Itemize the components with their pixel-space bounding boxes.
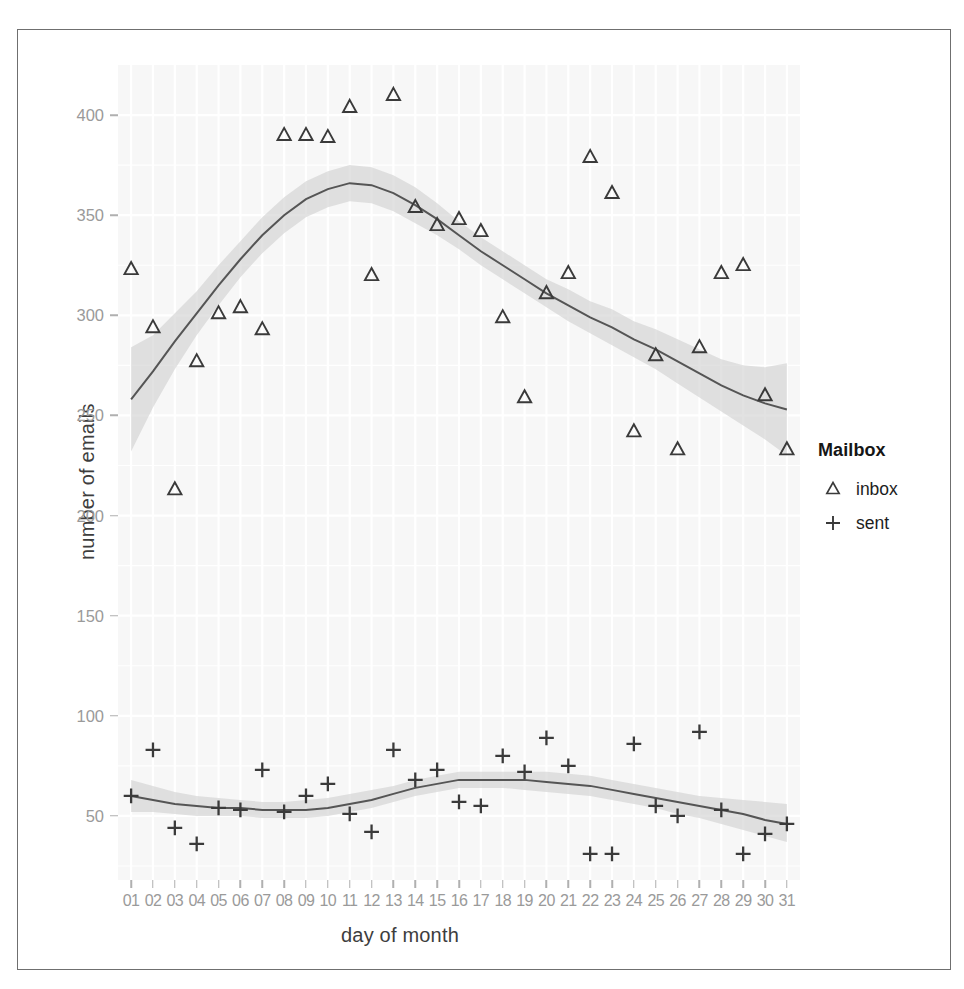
x-axis-tick-mark <box>174 880 176 888</box>
y-axis-tick-mark <box>110 114 118 116</box>
x-axis-tick-mark <box>742 880 744 888</box>
y-axis-tick-mark <box>110 415 118 417</box>
legend-item-sent[interactable]: sent <box>818 508 948 538</box>
y-axis-tick-label: 150 <box>40 606 104 625</box>
x-axis-tick-label: 26 <box>669 892 686 910</box>
x-axis-tick-mark <box>502 880 504 888</box>
x-axis-tick-label: 09 <box>298 892 315 910</box>
x-axis-tick-label: 21 <box>560 892 577 910</box>
x-axis-tick-label: 31 <box>779 892 796 910</box>
x-axis-tick-label: 07 <box>254 892 271 910</box>
x-axis-tick-mark <box>349 880 351 888</box>
x-axis-tick-label: 11 <box>342 892 357 910</box>
x-axis-tick-mark <box>393 880 395 888</box>
y-axis-tick-mark <box>110 315 118 317</box>
y-axis-tick-label: 50 <box>40 806 104 825</box>
x-axis-tick-label: 18 <box>494 892 511 910</box>
x-axis-tick-mark <box>196 880 198 888</box>
x-axis-tick-label: 10 <box>320 892 337 910</box>
x-axis-tick-label: 24 <box>626 892 643 910</box>
legend-item-label: inbox <box>848 479 898 500</box>
x-axis-tick-mark <box>152 880 154 888</box>
x-axis-tick-label: 01 <box>123 892 140 910</box>
x-axis-tick-mark <box>677 880 679 888</box>
x-axis-tick-mark <box>699 880 701 888</box>
x-axis-tick-label: 15 <box>429 892 446 910</box>
legend-title: Mailbox <box>818 440 948 461</box>
legend-entries: inboxsent <box>818 474 948 538</box>
x-axis-tick-label: 04 <box>188 892 205 910</box>
x-axis-tick-label: 20 <box>538 892 555 910</box>
x-axis-tick-mark <box>130 880 132 888</box>
x-axis-tick-label: 25 <box>647 892 664 910</box>
x-axis-tick-mark <box>633 880 635 888</box>
x-axis-tick-mark <box>546 880 548 888</box>
y-axis-tick-label: 100 <box>40 706 104 725</box>
x-axis-tick-label: 14 <box>407 892 424 910</box>
x-axis-tick-mark <box>240 880 242 888</box>
x-axis-tick-mark <box>524 880 526 888</box>
x-axis-tick-mark <box>327 880 329 888</box>
x-axis-tick-label: 19 <box>516 892 533 910</box>
x-axis-tick-label: 16 <box>451 892 468 910</box>
x-axis-tick-mark <box>655 880 657 888</box>
y-axis-tick-label: 250 <box>40 406 104 425</box>
x-axis-tick-mark <box>436 880 438 888</box>
x-axis-tick-label: 17 <box>473 892 490 910</box>
x-axis-tick-label: 12 <box>363 892 380 910</box>
y-axis-tick-mark <box>110 515 118 517</box>
y-axis-tick-label: 350 <box>40 206 104 225</box>
x-axis-title: day of month <box>0 924 800 947</box>
legend: Mailbox inboxsent <box>818 440 948 542</box>
x-axis-tick-label: 05 <box>210 892 227 910</box>
x-axis-tick-label: 03 <box>167 892 184 910</box>
x-axis-tick-label: 08 <box>276 892 293 910</box>
x-axis-tick-label: 22 <box>582 892 599 910</box>
x-axis-tick-label: 02 <box>145 892 162 910</box>
x-axis-tick-mark <box>589 880 591 888</box>
y-axis-tick-mark <box>110 615 118 617</box>
x-axis-tick-mark <box>611 880 613 888</box>
y-axis-tick-label: 200 <box>40 506 104 525</box>
y-axis-title: number of emails <box>76 403 99 560</box>
x-axis-tick-label: 29 <box>735 892 752 910</box>
y-axis-tick-label: 300 <box>40 306 104 325</box>
legend-item-label: sent <box>848 513 889 534</box>
x-axis-tick-mark <box>305 880 307 888</box>
x-axis-tick-label: 30 <box>757 892 774 910</box>
x-axis-tick-mark <box>764 880 766 888</box>
plus-icon <box>818 513 848 533</box>
x-axis-tick-label: 23 <box>604 892 621 910</box>
x-axis-tick-label: 28 <box>713 892 730 910</box>
x-axis-tick-mark <box>480 880 482 888</box>
x-axis-tick-label: 13 <box>385 892 402 910</box>
y-axis-tick-mark <box>110 715 118 717</box>
x-axis-tick-mark <box>568 880 570 888</box>
triangle-icon <box>818 479 848 499</box>
y-axis-tick-label: 400 <box>40 106 104 125</box>
legend-item-inbox[interactable]: inbox <box>818 474 948 504</box>
x-axis-tick-mark <box>283 880 285 888</box>
chart-plot-root: number of emails day of month 5010015020… <box>0 0 964 989</box>
x-axis-tick-mark <box>458 880 460 888</box>
x-axis-tick-mark <box>415 880 417 888</box>
x-axis-tick-mark <box>262 880 264 888</box>
x-axis-tick-label: 06 <box>232 892 249 910</box>
x-axis-tick-mark <box>721 880 723 888</box>
y-axis-tick-mark <box>110 214 118 216</box>
x-axis-tick-mark <box>786 880 788 888</box>
y-axis-tick-mark <box>110 815 118 817</box>
x-axis-tick-mark <box>371 880 373 888</box>
x-axis-tick-label: 27 <box>691 892 708 910</box>
x-axis-tick-mark <box>218 880 220 888</box>
